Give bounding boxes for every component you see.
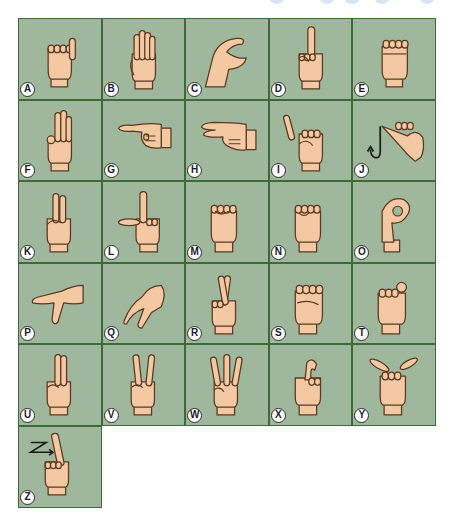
sign-cell-b: B: [102, 18, 186, 100]
letter-label: V: [104, 408, 119, 423]
letter-label: I: [271, 163, 286, 178]
letter-label: B: [104, 82, 119, 97]
letter-label: E: [354, 82, 369, 97]
letter-label: Z: [20, 490, 35, 505]
sign-cell-i: I: [269, 100, 353, 182]
letter-label: L: [104, 245, 119, 260]
sign-cell-f: F: [18, 100, 102, 182]
sign-cell-s: S: [269, 263, 353, 345]
letter-label: M: [187, 245, 202, 260]
sign-cell-l: L: [102, 181, 186, 263]
letter-label: A: [20, 82, 35, 97]
sign-cell-n: N: [269, 181, 353, 263]
sign-cell-a: A: [18, 18, 102, 100]
asl-alphabet-grid: ABCDEFGHIJKLMNOPQRSTUVWXYZ: [18, 18, 436, 426]
sign-cell-p: P: [18, 263, 102, 345]
letter-label: N: [271, 245, 286, 260]
sign-cell-m: M: [185, 181, 269, 263]
sign-cell-w: W: [185, 344, 269, 426]
sign-cell-j: J: [352, 100, 436, 182]
letter-label: Q: [104, 326, 119, 341]
sign-cell-d: D: [269, 18, 353, 100]
sign-cell-k: K: [18, 181, 102, 263]
sign-cell-v: V: [102, 344, 186, 426]
sign-cell-o: O: [352, 181, 436, 263]
sign-cell-h: H: [185, 100, 269, 182]
sign-cell-x: X: [269, 344, 353, 426]
sign-cell-u: U: [18, 344, 102, 426]
sign-cell-y: Y: [352, 344, 436, 426]
sign-cell-t: T: [352, 263, 436, 345]
letter-label: X: [271, 408, 286, 423]
sign-cell-q: Q: [102, 263, 186, 345]
letter-label: U: [20, 408, 35, 423]
letter-label: G: [104, 163, 119, 178]
top-decoration: [260, 0, 440, 5]
sign-cell-g: G: [102, 100, 186, 182]
sign-cell-z: Z: [18, 426, 102, 508]
letter-label: C: [187, 82, 202, 97]
sign-cell-r: R: [185, 263, 269, 345]
letter-label: D: [271, 82, 286, 97]
sign-cell-e: E: [352, 18, 436, 100]
letter-label: K: [20, 245, 35, 260]
sign-cell-c: C: [185, 18, 269, 100]
